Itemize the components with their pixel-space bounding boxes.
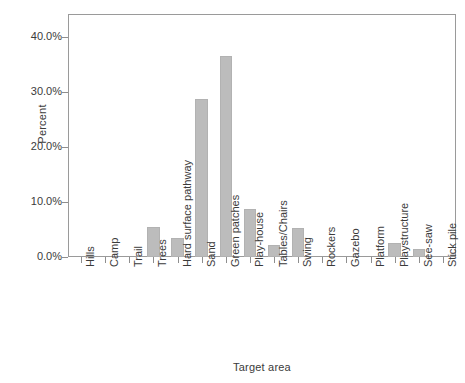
y-axis-tick-mark: [62, 257, 68, 258]
y-axis-tick-label: 20.0%: [16, 141, 62, 152]
x-axis-category-label: Tables/Chairs: [278, 200, 289, 267]
x-axis-category-label: Stick pile: [447, 223, 458, 267]
x-axis-tick-mark: [226, 257, 227, 263]
x-axis-tick-mark: [322, 257, 323, 263]
x-axis-category-label: Trail: [133, 246, 144, 267]
x-axis-tick-mark: [274, 257, 275, 263]
x-axis-tick-mark: [202, 257, 203, 263]
x-axis-tick-mark: [153, 257, 154, 263]
x-axis-tick-mark: [105, 257, 106, 263]
x-axis-tick-mark: [129, 257, 130, 263]
x-axis-category-label: Playstructure: [399, 203, 410, 267]
x-axis-category-label: See-saw: [423, 224, 434, 267]
x-axis-category-label: Rockers: [326, 227, 337, 267]
x-axis-tick-mark: [298, 257, 299, 263]
y-axis-tick-label: 0.0%: [16, 251, 62, 262]
y-axis-tick-label: 40.0%: [16, 31, 62, 42]
x-axis-category-label: Hills: [85, 246, 96, 267]
y-axis-tick-labels: 0.0%10.0%20.0%30.0%40.0%: [10, 0, 62, 383]
x-axis-category-label: Platform: [375, 226, 386, 267]
bar-chart-figure: Percent 0.0%10.0%20.0%30.0%40.0% Target …: [0, 0, 465, 383]
x-axis-category-label: Hard surface pathway: [182, 160, 193, 267]
x-axis-tick-mark: [250, 257, 251, 263]
x-axis-tick-mark: [346, 257, 347, 263]
x-axis-category-label: Play-house: [254, 212, 265, 267]
x-axis-category-label: Green patches: [230, 195, 241, 267]
x-axis-tick-mark: [178, 257, 179, 263]
y-axis-tick-label: 30.0%: [16, 86, 62, 97]
x-axis-category-label: Sand: [206, 241, 217, 267]
y-axis-tick-label: 10.0%: [16, 196, 62, 207]
x-axis-category-label: Camp: [109, 238, 120, 267]
x-axis-category-label: Swing: [302, 237, 313, 267]
bar: [195, 99, 208, 257]
x-axis-tick-mark: [395, 257, 396, 263]
x-axis-category-label: Gazebo: [350, 228, 361, 267]
x-axis-tick-mark: [371, 257, 372, 263]
x-axis-tick-mark: [81, 257, 82, 263]
x-axis-title: Target area: [68, 361, 456, 373]
x-axis-category-label: Trees: [157, 239, 168, 267]
x-axis-tick-mark: [443, 257, 444, 263]
x-axis-tick-mark: [419, 257, 420, 263]
